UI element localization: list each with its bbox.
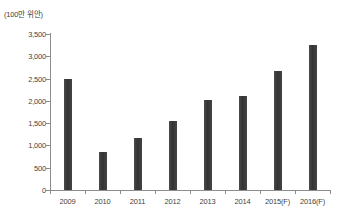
x-axis-category-label: 2012: [165, 197, 181, 206]
y-axis-tick-label: 3,500: [28, 30, 46, 39]
x-axis-category-label: 2015(F): [265, 197, 290, 206]
x-axis-category-label: 2014: [235, 197, 251, 206]
y-axis-unit-label: (100만 위안): [4, 8, 43, 19]
x-axis-tick: [155, 190, 156, 194]
x-axis-tick: [50, 190, 51, 194]
x-axis-tick: [120, 190, 121, 194]
x-axis-category-label: 2016(F): [300, 197, 325, 206]
x-axis-tick: [190, 190, 191, 194]
x-axis-category-label: 2013: [200, 197, 216, 206]
y-axis-tick: [46, 101, 50, 102]
y-axis-tick-label: 3,000: [28, 52, 46, 61]
bar: [169, 121, 177, 190]
y-axis-tick: [46, 56, 50, 57]
plot-area: [50, 34, 330, 190]
bar-chart: (100만 위안) 05001,0001,5002,0002,5003,0003…: [0, 0, 338, 221]
x-axis-category-label: 2009: [60, 197, 76, 206]
y-axis-tick: [46, 34, 50, 35]
y-axis-tick-label: 500: [34, 163, 46, 172]
bar: [134, 138, 142, 190]
bar: [99, 152, 107, 190]
x-axis-tick: [330, 190, 331, 194]
y-axis-tick-label: 2,000: [28, 96, 46, 105]
x-axis-tick: [85, 190, 86, 194]
y-axis-tick-label: 0: [42, 186, 46, 195]
x-axis-category-label: 2011: [130, 197, 145, 206]
bar: [274, 71, 282, 190]
y-axis-tick-label: 1,500: [28, 119, 46, 128]
y-axis-tick-label: 1,000: [28, 141, 46, 150]
x-axis-tick: [260, 190, 261, 194]
y-axis-tick: [46, 79, 50, 80]
x-axis-tick: [225, 190, 226, 194]
bar: [64, 79, 72, 190]
y-axis-tick: [46, 123, 50, 124]
y-axis-tick: [46, 145, 50, 146]
bar: [309, 45, 317, 190]
y-axis-tick: [46, 168, 50, 169]
y-axis-tick-label: 2,500: [28, 74, 46, 83]
x-axis-category-label: 2010: [95, 197, 111, 206]
bar: [239, 96, 247, 190]
bar: [204, 100, 212, 190]
x-axis-tick: [295, 190, 296, 194]
